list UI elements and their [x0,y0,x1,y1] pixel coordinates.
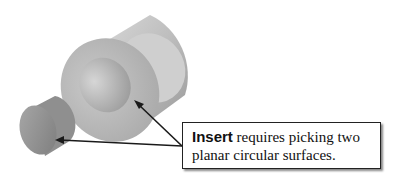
callout-keyword: Insert [192,128,233,145]
small-cylinder [14,96,75,159]
callout-box: Insert requires picking two planar circu… [182,122,381,169]
figure-canvas: Insert requires picking two planar circu… [0,0,407,186]
